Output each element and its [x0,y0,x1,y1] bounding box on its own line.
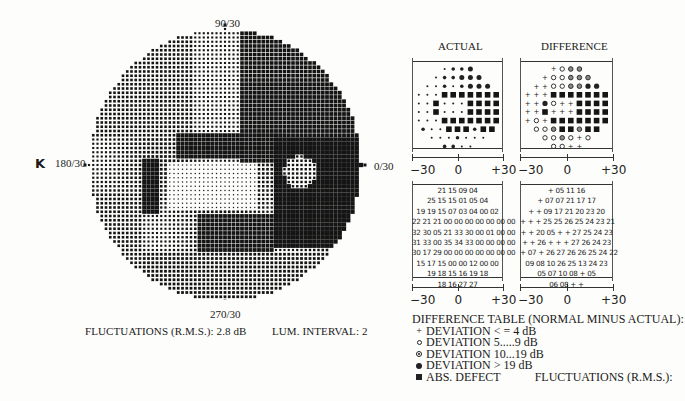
symbol-mark [493,118,499,124]
symbol-mark: + [568,143,574,148]
actual-values-row: 15 17 15 00 00 12 00 00 [412,259,503,269]
open-circle-icon [417,340,422,345]
symbol-mark: + [533,91,539,99]
actual-values-row: 31 33 00 35 34 33 00 00 00 00 [412,238,503,248]
symbol-mark [577,127,582,132]
symbol-mark [418,111,420,113]
symbol-mark: + [533,108,539,116]
symbol-mark [444,111,446,113]
meridian-tick-mark [364,164,367,167]
symbol-mark: + [568,100,574,108]
difference-values-row: 09 08 10 26 25 13 24 23 [520,259,613,269]
symbol-mark [435,77,437,79]
difference-values-row: + + 09 17 21 20 23 20 [520,207,613,217]
symbol-mark [489,126,495,132]
actual-values-row: 22 21 21 00 00 00 00 00 00 00 [412,217,503,227]
actual-values-row: 32 30 05 21 33 30 00 01 00 00 [412,228,503,238]
symbol-mark [476,118,482,124]
symbol-mark [481,126,487,132]
actual-values-tick-label: +30 [491,293,516,307]
symbol-mark [551,75,555,79]
symbol-mark [426,120,428,122]
difference-values-row: + 05 11 16 [520,186,613,196]
symbol-mark [485,84,490,89]
difference-symbol-tick [520,154,521,161]
symbol-mark [594,84,599,89]
difference-values-row: + 07 07 21 17 17 [520,196,613,206]
actual-values-row: 19 19 15 07 03 04 00 02 [412,207,503,217]
symbol-mark [463,126,469,132]
difference-symbol-tick [567,154,568,161]
symbol-mark [485,109,491,115]
symbol-mark [586,75,591,80]
symbol-mark [493,101,499,107]
symbol-mark [435,120,437,122]
symbol-mark [444,102,446,104]
lum-interval-readout: LUM. INTERVAL: 2 [272,325,368,337]
meridian-label-bottom: 270/30 [210,308,241,320]
difference-values-tick-label: 0 [564,293,572,307]
symbol-mark: + [542,91,548,99]
symbol-mark [594,118,600,124]
symbol-mark [442,118,448,124]
symbol-mark [446,126,452,132]
symbol-mark [602,118,608,124]
symbol-mark [560,136,565,141]
legend-item-square: ABS. DEFECTFLUCTUATIONS (R.M.S.): [412,372,684,384]
symbol-mark: + [542,83,548,91]
symbol-mark [594,101,600,107]
symbol-mark [585,101,591,107]
symbol-mark [577,75,582,80]
symbol-mark [435,85,437,87]
symbol-mark [551,127,556,132]
symbol-mark [560,84,564,88]
symbol-mark [569,75,574,80]
symbol-mark [543,127,547,131]
difference-symbol-tick-label: +30 [601,163,626,177]
symbol-mark [451,67,455,71]
actual-symbol-tick-label: +30 [491,163,516,177]
difference-legend: DIFFERENCE TABLE (NORMAL MINUS ACTUAL): … [412,314,684,383]
symbol-mark [577,118,583,124]
symbol-mark [426,102,428,104]
symbol-mark [450,92,456,98]
symbol-mark [421,127,425,131]
symbol-mark [418,102,420,104]
symbol-mark [443,84,447,88]
symbol-mark [568,92,574,98]
actual-values-panel: 21 15 09 0425 15 15 01 05 0419 19 15 07 … [412,184,503,278]
actual-symbol-tick [503,154,504,161]
symbol-mark [585,126,591,132]
symbol-mark: + [551,65,557,73]
symbol-mark [551,92,557,98]
difference-symbol-tick [613,154,614,161]
symbol-mark [468,101,474,107]
actual-symbol-tick [458,154,459,161]
symbol-mark [577,101,583,107]
symbol-mark: + [533,100,539,108]
symbol-mark [468,67,473,72]
actual-panel-title: ACTUAL [438,40,483,52]
symbol-mark [577,67,582,72]
symbol-mark [476,92,482,98]
symbol-mark [461,102,463,104]
filled-square-icon [416,374,422,380]
symbol-mark: + [576,134,582,142]
symbol-mark [477,84,482,89]
symbol-mark [442,92,448,98]
symbol-mark [493,109,499,115]
symbol-mark [443,145,447,148]
symbol-mark [469,145,471,147]
halftone-dots [88,28,363,300]
symbol-mark [476,101,482,107]
symbol-mark [456,136,460,140]
actual-values-tick-label: −30 [410,293,435,307]
symbol-mark [602,92,608,98]
symbol-mark [485,101,491,107]
symbol-mark [439,128,441,130]
difference-values-row: 05 07 10 08 + 05 [520,269,613,279]
visual-field-grayscale-map [0,0,400,300]
symbol-mark [433,109,439,115]
symbol-mark [577,109,583,115]
symbol-mark [459,75,464,80]
